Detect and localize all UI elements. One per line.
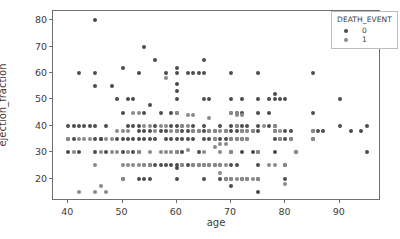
- data-point: [153, 137, 157, 141]
- data-point: [110, 137, 114, 141]
- data-point: [175, 150, 179, 154]
- data-point: [148, 137, 152, 141]
- data-point: [180, 129, 184, 133]
- data-point: [93, 71, 97, 75]
- data-point: [289, 129, 293, 133]
- data-point: [142, 129, 146, 133]
- data-point: [256, 97, 260, 101]
- data-point: [131, 150, 135, 154]
- data-point: [164, 71, 168, 75]
- data-point: [148, 163, 152, 167]
- data-point: [229, 97, 233, 101]
- data-point: [115, 150, 119, 154]
- data-point: [283, 137, 287, 141]
- data-point: [218, 171, 222, 175]
- data-point: [121, 137, 125, 141]
- data-point: [93, 124, 97, 128]
- data-point: [218, 137, 222, 141]
- data-point: [77, 124, 81, 128]
- data-point: [267, 124, 271, 128]
- data-point: [131, 111, 135, 115]
- data-point: [186, 163, 190, 167]
- data-point: [229, 184, 233, 188]
- data-point: [169, 111, 173, 115]
- data-point: [153, 58, 157, 62]
- legend: DEATH_EVENT 01: [331, 11, 398, 49]
- data-point: [224, 177, 228, 181]
- data-point: [142, 163, 146, 167]
- data-point: [191, 129, 195, 133]
- data-point: [104, 124, 108, 128]
- data-point: [197, 150, 201, 154]
- data-point: [137, 129, 141, 133]
- data-point: [159, 129, 163, 133]
- legend-entry: 0: [337, 26, 392, 35]
- data-point: [175, 124, 179, 128]
- legend-marker-icon: [337, 38, 355, 42]
- data-point: [256, 124, 260, 128]
- data-point: [273, 124, 277, 128]
- data-point: [131, 137, 135, 141]
- data-point: [202, 163, 206, 167]
- data-point: [229, 71, 233, 75]
- x-tick-mark: [230, 200, 231, 203]
- x-tick-label: 40: [61, 206, 73, 217]
- data-point: [126, 129, 130, 133]
- data-point: [245, 124, 249, 128]
- data-point: [311, 111, 315, 115]
- data-point: [235, 163, 239, 167]
- data-point: [93, 190, 97, 194]
- y-tick-label: 60: [35, 67, 47, 78]
- data-point: [245, 137, 249, 141]
- data-point: [256, 163, 260, 167]
- data-point: [245, 177, 249, 181]
- data-point: [278, 97, 282, 101]
- data-point: [77, 150, 81, 154]
- data-point: [197, 129, 201, 133]
- data-point: [159, 111, 163, 115]
- data-point: [229, 150, 233, 154]
- data-point: [169, 163, 173, 167]
- data-point: [88, 137, 92, 141]
- data-point: [316, 129, 320, 133]
- data-point: [229, 177, 233, 181]
- data-point: [121, 66, 125, 70]
- data-point: [273, 92, 277, 96]
- data-point: [131, 124, 135, 128]
- x-tick-mark: [67, 200, 68, 203]
- data-point: [240, 137, 244, 141]
- data-point: [175, 129, 179, 133]
- data-point: [153, 124, 157, 128]
- data-point: [175, 66, 179, 70]
- data-point: [153, 163, 157, 167]
- data-point: [207, 97, 211, 101]
- data-point: [256, 150, 260, 154]
- data-point: [66, 150, 70, 154]
- data-point: [256, 71, 260, 75]
- data-point: [267, 97, 271, 101]
- data-point: [202, 177, 206, 181]
- data-point: [159, 150, 163, 154]
- data-point: [251, 150, 255, 154]
- data-point: [164, 76, 168, 80]
- data-point: [283, 182, 287, 186]
- data-point: [93, 84, 97, 88]
- data-point: [93, 163, 97, 167]
- data-point: [278, 137, 282, 141]
- data-point: [338, 124, 342, 128]
- data-point: [82, 137, 86, 141]
- data-point: [251, 177, 255, 181]
- data-point: [186, 129, 190, 133]
- data-point: [142, 177, 146, 181]
- data-point: [169, 129, 173, 133]
- data-point: [202, 124, 206, 128]
- data-point: [213, 163, 217, 167]
- data-point: [99, 150, 103, 154]
- data-point: [93, 137, 97, 141]
- data-point: [186, 137, 190, 141]
- x-tick-label: 60: [170, 206, 182, 217]
- data-point: [240, 124, 244, 128]
- data-point: [240, 113, 244, 117]
- data-point: [289, 137, 293, 141]
- data-point: [207, 116, 211, 120]
